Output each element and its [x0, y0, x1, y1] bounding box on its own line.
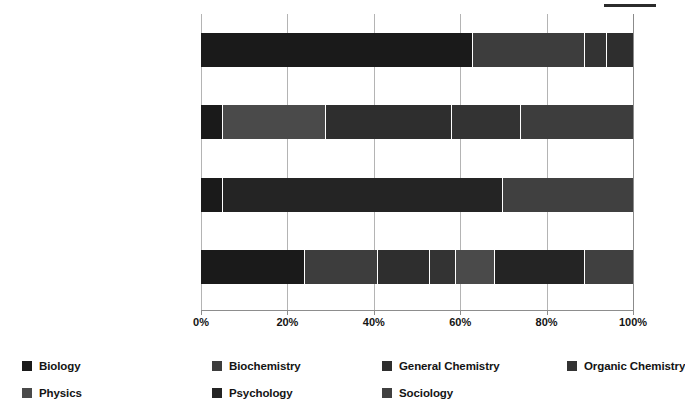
bar-row	[201, 105, 633, 139]
legend-item[interactable]: Psychology	[212, 387, 293, 399]
legend-label: General Chemistry	[399, 360, 500, 372]
bar-segment[interactable]	[201, 105, 223, 139]
legend-label: Sociology	[399, 387, 453, 399]
bar-segment[interactable]	[326, 105, 451, 139]
legend-swatch-icon	[22, 388, 32, 398]
bar-segment[interactable]	[585, 250, 633, 284]
bar-track	[201, 250, 633, 284]
legend-item[interactable]: Biology	[22, 360, 80, 372]
gridline-100	[633, 14, 634, 310]
x-tick-label-60: 60%	[449, 316, 471, 328]
bar-segment[interactable]	[456, 250, 495, 284]
bar-track	[201, 178, 633, 212]
bar-segment[interactable]	[201, 250, 305, 284]
legend-swatch-icon	[382, 388, 392, 398]
legend-swatch-icon	[382, 361, 392, 371]
bar-segment[interactable]	[473, 33, 585, 67]
legend-label: Biochemistry	[229, 360, 301, 372]
bar-segment[interactable]	[305, 250, 378, 284]
x-tick-label-40: 40%	[363, 316, 385, 328]
bar-track	[201, 33, 633, 67]
x-tick-label-100: 100%	[619, 316, 647, 328]
legend-swatch-icon	[212, 361, 222, 371]
bar-segment[interactable]	[201, 178, 223, 212]
bar-segment[interactable]	[585, 33, 607, 67]
x-tick-0	[201, 310, 202, 315]
x-tick-label-20: 20%	[276, 316, 298, 328]
top-edge-rule	[604, 4, 656, 7]
legend-item[interactable]: General Chemistry	[382, 360, 500, 372]
x-tick-80	[547, 310, 548, 315]
legend-item[interactable]: Biochemistry	[212, 360, 301, 372]
x-tick-label-80: 80%	[536, 316, 558, 328]
legend-swatch-icon	[212, 388, 222, 398]
bar-row	[201, 178, 633, 212]
legend-swatch-icon	[567, 361, 577, 371]
legend-label: Psychology	[229, 387, 293, 399]
x-axis-line	[201, 310, 634, 311]
legend-item[interactable]: Organic Chemistry	[567, 360, 685, 372]
x-tick-40	[374, 310, 375, 315]
legend-label: Physics	[39, 387, 82, 399]
bar-segment[interactable]	[223, 105, 327, 139]
bar-segment[interactable]	[430, 250, 456, 284]
bar-segment[interactable]	[503, 178, 633, 212]
bar-segment[interactable]	[521, 105, 633, 139]
plot-area	[201, 14, 633, 310]
legend-swatch-icon	[22, 361, 32, 371]
legend-label: Organic Chemistry	[584, 360, 685, 372]
bar-segment[interactable]	[607, 33, 633, 67]
bar-segment[interactable]	[378, 250, 430, 284]
legend-label: Biology	[39, 360, 80, 372]
legend-item[interactable]: Physics	[22, 387, 82, 399]
bar-segment[interactable]	[452, 105, 521, 139]
bar-segment[interactable]	[201, 33, 473, 67]
x-tick-100	[633, 310, 634, 315]
bar-row	[201, 33, 633, 67]
bar-segment[interactable]	[223, 178, 504, 212]
x-tick-label-0: 0%	[193, 316, 209, 328]
bar-row	[201, 250, 633, 284]
x-tick-20	[287, 310, 288, 315]
x-tick-60	[460, 310, 461, 315]
bar-track	[201, 105, 633, 139]
legend-item[interactable]: Sociology	[382, 387, 453, 399]
bar-segment[interactable]	[495, 250, 586, 284]
